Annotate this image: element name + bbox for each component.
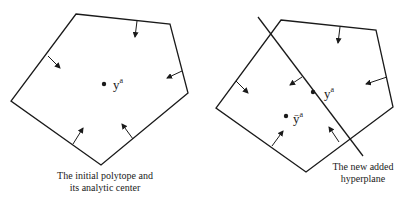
initial-polytope-caption: The initial polytope and its analytic ce… [55, 170, 155, 194]
analytic-center-label: ya [113, 77, 123, 91]
normal-arrow-top [135, 21, 137, 37]
normal-arrow-bottom-right [122, 124, 133, 139]
old-center-label: ya [324, 86, 334, 100]
old-center-dot [311, 90, 315, 94]
normal-arrow-bottom-left [73, 128, 83, 144]
new-center-dot [284, 114, 288, 118]
new-hyperplane-line [258, 17, 363, 156]
normal-arrow-left [236, 81, 248, 93]
normal-arrow-top [338, 27, 340, 43]
analytic-center-dot [102, 82, 106, 86]
normal-arrow-right [167, 71, 182, 78]
normal-arrow-bottom-right [329, 127, 339, 142]
normal-arrow-bottom-left [272, 131, 283, 146]
new-hyperplane-caption: The new added hyperplane [328, 161, 398, 185]
polytope-with-cut [216, 17, 393, 172]
new-center-label: ȳa [293, 111, 303, 125]
normal-arrow-right [366, 77, 387, 84]
hyperplane-normal-arrow [290, 77, 302, 85]
initial-polytope [11, 14, 188, 165]
normal-arrow-left [48, 56, 60, 68]
